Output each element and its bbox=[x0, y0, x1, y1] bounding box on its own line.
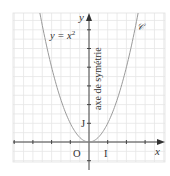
y-axis-arrow-icon bbox=[86, 13, 92, 21]
symmetry-axis-label: axe de symétrie bbox=[92, 47, 103, 110]
x-axis-label: x bbox=[154, 145, 160, 157]
curve-name-label: 𝒞 bbox=[137, 22, 146, 32]
y-axis-label: y bbox=[78, 11, 84, 23]
plot-area: y x y = x2 𝒞 axe de symétrie O I J bbox=[0, 0, 170, 176]
origin-label: O bbox=[73, 148, 81, 159]
unit-j-label: J bbox=[81, 118, 85, 129]
unit-i-label: I bbox=[104, 148, 108, 159]
parabola-figure: y x y = x2 𝒞 axe de symétrie O I J bbox=[0, 0, 170, 176]
